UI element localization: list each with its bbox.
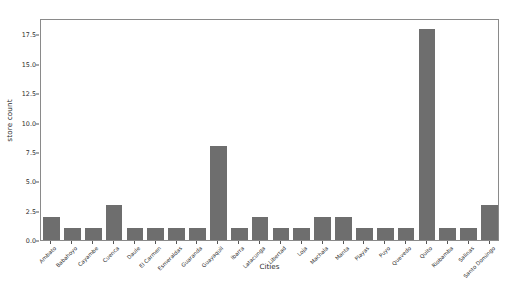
y-axis-tick-mark: [36, 35, 39, 36]
bar: [252, 217, 269, 240]
x-axis-tick-mark: [280, 241, 281, 244]
bar: [377, 228, 394, 240]
x-axis-tick-label: Playas: [354, 245, 371, 262]
x-axis-tick-mark: [238, 241, 239, 244]
y-axis-tick-mark: [36, 182, 39, 183]
x-axis-tick-label: Manta: [333, 245, 349, 261]
x-axis-tick-mark: [196, 241, 197, 244]
x-axis-tick-mark: [489, 241, 490, 244]
x-axis-tick-mark: [217, 241, 218, 244]
y-axis-tick-mark: [36, 211, 39, 212]
x-axis-tick-label: Quito: [418, 245, 433, 260]
bar: [273, 228, 290, 240]
y-axis-tick-mark: [36, 152, 39, 153]
x-axis-tick-mark: [155, 241, 156, 244]
bar: [168, 228, 185, 240]
y-axis-tick-label: 2.5: [26, 208, 36, 216]
bar: [43, 217, 60, 240]
x-axis-tick-mark: [259, 241, 260, 244]
bar: [460, 228, 477, 240]
y-axis-title-text: store count: [5, 99, 14, 141]
bar: [314, 217, 331, 240]
y-axis-tick-label: 10.0: [22, 120, 36, 128]
y-axis-tick-labels: 0.02.55.07.510.012.515.017.5: [14, 0, 36, 283]
y-axis-tick-label: 12.5: [22, 90, 36, 98]
bar: [210, 146, 227, 240]
x-axis-tick-mark: [426, 241, 427, 244]
bar-series: [41, 20, 498, 240]
bar: [64, 228, 81, 240]
x-axis-tick-mark: [71, 241, 72, 244]
y-axis-tick-label: 0.0: [26, 237, 36, 245]
y-axis-tick-mark: [36, 123, 39, 124]
x-axis-tick-mark: [301, 241, 302, 244]
x-axis-tick-mark: [447, 241, 448, 244]
bar: [335, 217, 352, 240]
bar: [189, 228, 206, 240]
y-axis-tick-mark: [36, 94, 39, 95]
x-axis-tick-mark: [363, 241, 364, 244]
x-axis-tick-mark: [384, 241, 385, 244]
bar: [481, 205, 498, 240]
x-axis-tick-label: Puyo: [378, 245, 392, 259]
y-axis-tick-label: 15.0: [22, 61, 36, 69]
x-axis-tick-label: Daule: [126, 245, 142, 261]
x-axis-tick-mark: [322, 241, 323, 244]
bar: [147, 228, 164, 240]
bar: [419, 29, 436, 240]
x-axis-tick-mark: [113, 241, 114, 244]
x-axis-tick-mark: [134, 241, 135, 244]
x-axis-tick-mark: [405, 241, 406, 244]
x-axis-title: Cities: [40, 262, 499, 271]
x-axis-tick-mark: [92, 241, 93, 244]
x-axis-tick-mark: [50, 241, 51, 244]
x-axis-tick-label: Cuenca: [102, 245, 121, 264]
plot-area: [40, 19, 499, 241]
y-axis-tick-mark: [36, 241, 39, 242]
bar: [439, 228, 456, 240]
x-axis-tick-label: Ibarra: [230, 245, 246, 261]
bar: [231, 228, 248, 240]
x-axis-tick-mark: [343, 241, 344, 244]
x-axis-tick-label: Salinas: [457, 245, 475, 263]
x-axis-tick-label: Loja: [296, 245, 308, 257]
y-axis-tick-label: 17.5: [22, 31, 36, 39]
bar-chart-figure: store count 0.02.55.07.510.012.515.017.5…: [0, 0, 509, 283]
bar: [293, 228, 310, 240]
bar: [398, 228, 415, 240]
bar: [127, 228, 144, 240]
y-axis-tick-mark: [36, 64, 39, 65]
bar: [106, 205, 123, 240]
bar: [85, 228, 102, 240]
x-axis-tick-mark: [176, 241, 177, 244]
y-axis-tick-label: 5.0: [26, 178, 36, 186]
bar: [356, 228, 373, 240]
y-axis-tick-label: 7.5: [26, 149, 36, 157]
x-axis-tick-mark: [468, 241, 469, 244]
